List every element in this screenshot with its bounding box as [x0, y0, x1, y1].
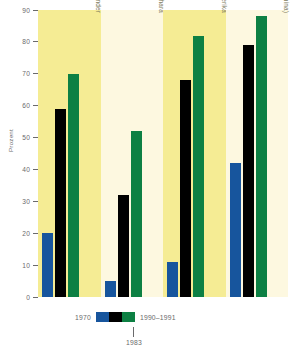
legend-swatch-1983	[109, 312, 122, 322]
legend-row: 1970 1990–1991	[75, 312, 176, 322]
legend-label-1983: 1983	[118, 339, 150, 346]
y-axis-tick: 90	[0, 6, 38, 15]
legend-label-1970: 1970	[75, 314, 91, 321]
y-axis-tick: 0	[0, 293, 38, 302]
y-axis-tick-label: 0	[26, 293, 30, 302]
bar	[256, 16, 267, 297]
y-axis-tick: 60	[0, 101, 38, 110]
bar	[131, 131, 142, 297]
bar	[193, 36, 204, 297]
y-axis-tick: 10	[0, 261, 38, 270]
legend-swatch-1990-1991	[122, 312, 135, 322]
y-axis-tick-label: 30	[22, 197, 30, 206]
y-axis-tick: 80	[0, 37, 38, 46]
legend-swatches	[96, 312, 135, 322]
bar	[118, 195, 129, 297]
y-axis-tick: 20	[0, 229, 38, 238]
plot-area: Alle EntwicklungsländerAfrikanische Länd…	[38, 10, 288, 297]
chart-panel: Alle Entwicklungsländer	[38, 10, 101, 297]
bar-group	[38, 10, 101, 297]
bar	[167, 262, 178, 297]
bar-group	[163, 10, 226, 297]
y-axis-tick-label: 80	[22, 37, 30, 46]
bar-group	[226, 10, 289, 297]
y-axis-tick-label: 50	[22, 133, 30, 142]
bar	[230, 163, 241, 297]
legend-swatch-1970	[96, 312, 109, 322]
chart-legend: 1970 1990–1991 1983	[0, 312, 295, 359]
y-axis-tick: 70	[0, 69, 38, 78]
y-axis-tick-label: 20	[22, 229, 30, 238]
bar-chart: Prozent 9080706050403020100 Alle Entwick…	[0, 0, 295, 359]
legend-label-1990-1991: 1990–1991	[140, 314, 176, 321]
bar	[55, 109, 66, 297]
y-axis-tick: 40	[0, 165, 38, 174]
bar	[105, 281, 116, 297]
bar	[180, 80, 191, 297]
y-axis-tick: 50	[0, 133, 38, 142]
bar	[243, 45, 254, 297]
y-axis-tick: 30	[0, 197, 38, 206]
bar	[68, 74, 79, 297]
y-axis-tick-label: 10	[22, 261, 30, 270]
bar-group	[101, 10, 164, 297]
chart-panel: Afrikanische Länder südlich der Sahara	[101, 10, 164, 297]
chart-panel: Lateinamerika	[163, 10, 226, 297]
y-axis-tick-label: 90	[22, 6, 30, 15]
bar	[42, 233, 53, 297]
y-axis-tick-label: 40	[22, 165, 30, 174]
y-axis-tick-label: 70	[22, 69, 30, 78]
y-axis-tick-label: 60	[22, 101, 30, 110]
legend-leader-line	[133, 327, 134, 337]
chart-panel: Asien (ohne China)	[226, 10, 289, 297]
